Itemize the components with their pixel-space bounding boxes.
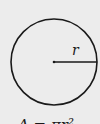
- center-point: [53, 61, 56, 64]
- radius-label: r: [72, 42, 80, 58]
- area-formula: A = πr²: [16, 116, 74, 124]
- circle-diagram: r A = πr²: [0, 0, 100, 124]
